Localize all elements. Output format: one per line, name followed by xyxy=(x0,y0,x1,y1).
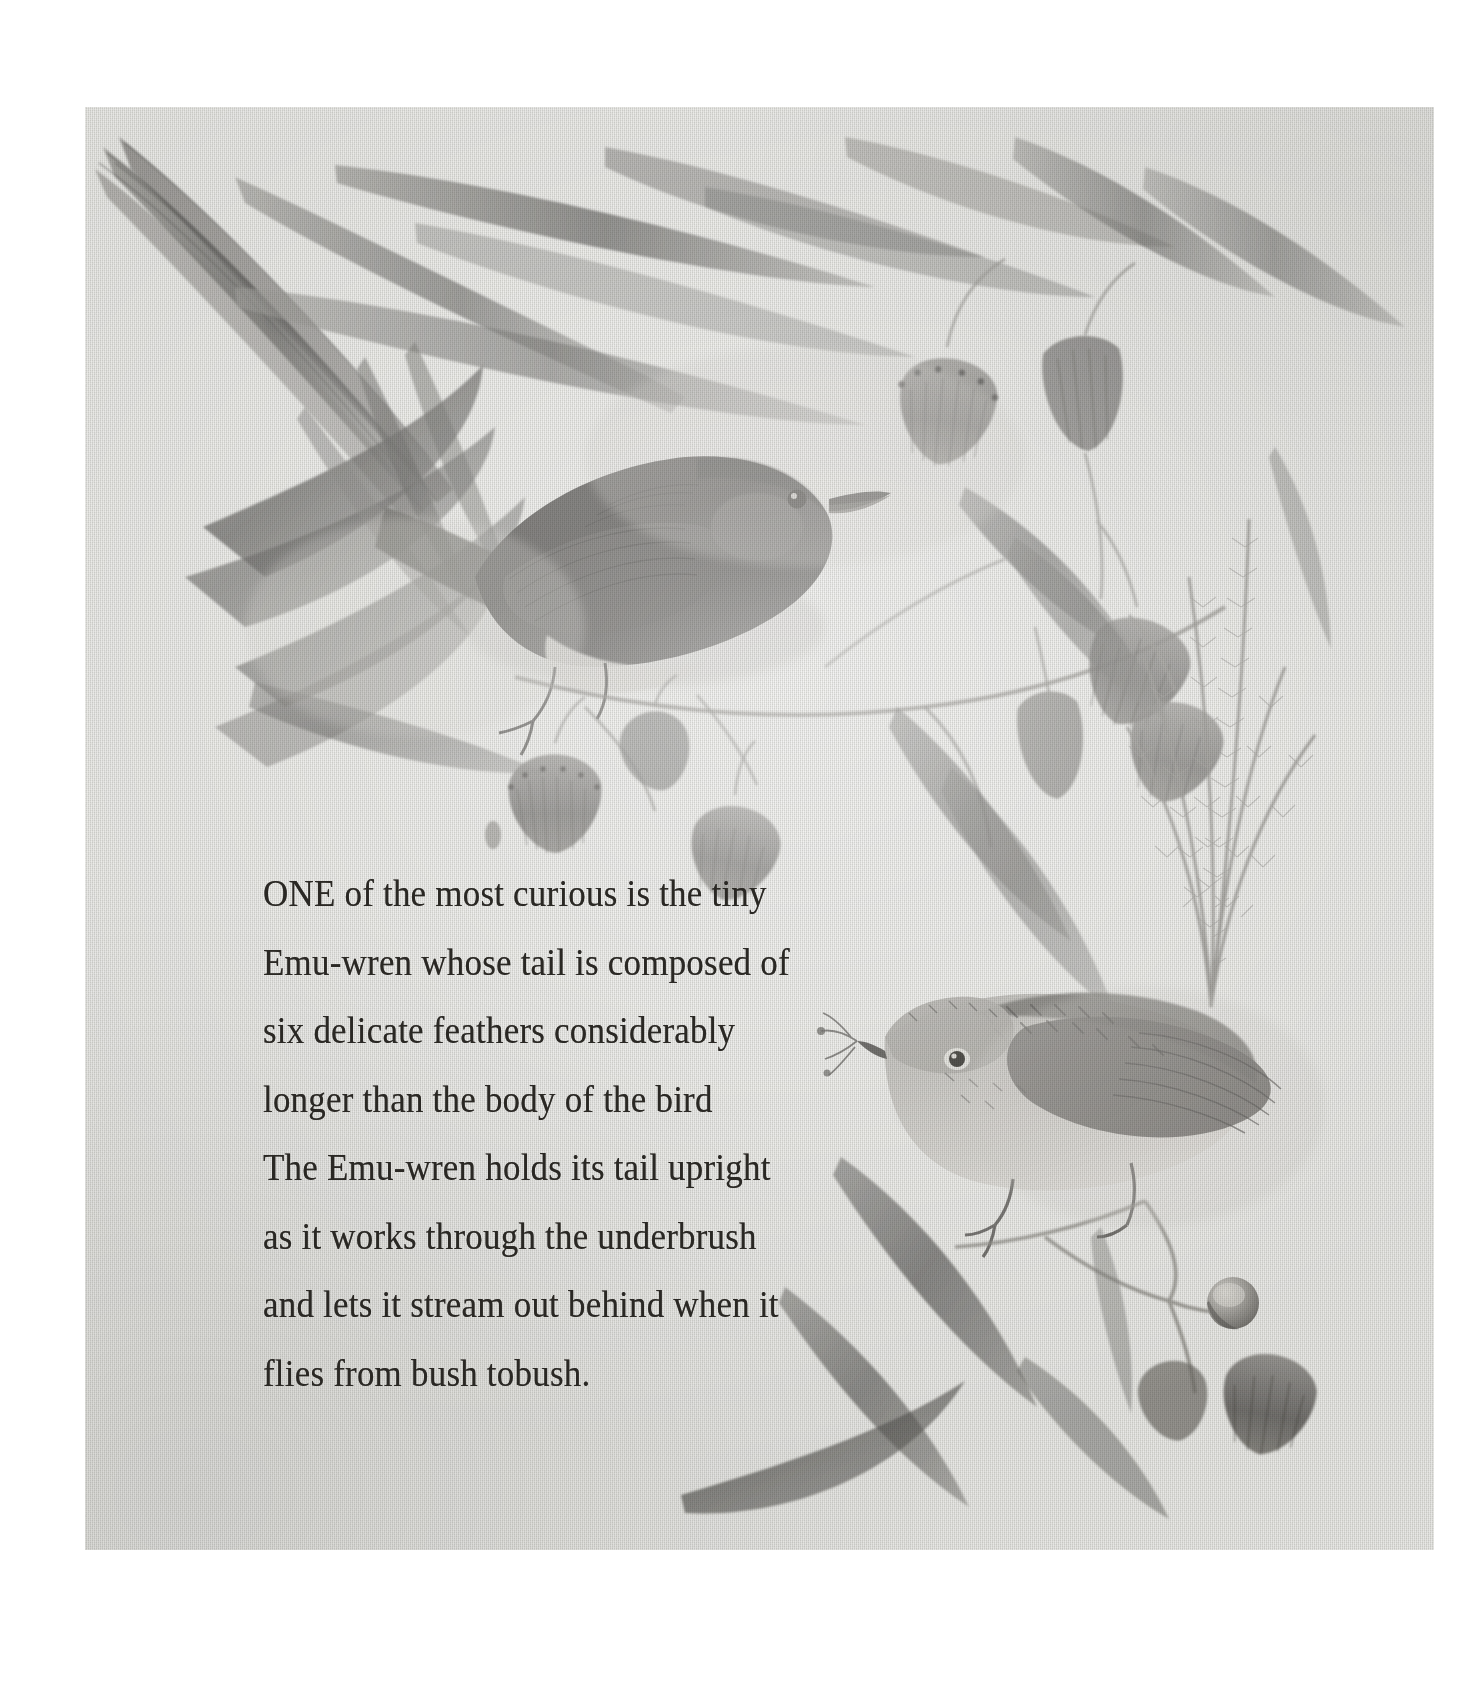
text-line-4: longer than the body of the bird xyxy=(263,1080,903,1117)
text-line-3: six delicate feathers considerably xyxy=(263,1012,903,1049)
text-line-1: ONE of the most curious is the tiny xyxy=(263,875,903,912)
lower-branch-and-fruit xyxy=(955,1201,1322,1462)
text-line-2: Emu-wren whose tail is composed of xyxy=(263,943,903,980)
calligraphy-text-block: ONE of the most curious is the tiny Emu-… xyxy=(263,877,903,1392)
text-line-8: flies from bush tobush. xyxy=(263,1354,903,1391)
text-line-7: and lets it stream out behind when it xyxy=(263,1286,903,1323)
text-line-5: The Emu-wren holds its tail upright xyxy=(263,1149,903,1186)
text-line-6: as it works through the underbrush xyxy=(263,1217,903,1254)
gum-nut xyxy=(1207,1277,1259,1329)
page-mount: ONE of the most curious is the tiny Emu-… xyxy=(0,0,1462,1683)
artwork-panel: ONE of the most curious is the tiny Emu-… xyxy=(85,107,1434,1550)
